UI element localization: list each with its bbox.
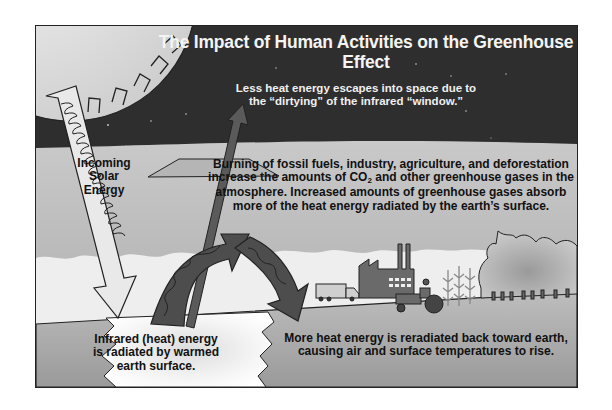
label-fragment: and other greenhouse gases in the (372, 170, 574, 184)
label-line: is radiated by warmed (76, 346, 236, 359)
label-line: atmosphere. Increased amounts of greenho… (196, 186, 578, 199)
label-line: Energy (64, 184, 144, 197)
label-line: Incoming (64, 157, 144, 170)
label-line: earth surface. (76, 360, 236, 373)
crops (443, 266, 475, 306)
label-reradiated-heat: More heat energy is reradiated back towa… (276, 332, 576, 359)
diagram-frame: The Impact of Human Activities on the Gr… (35, 25, 578, 388)
label-line: More heat energy is reradiated back towa… (276, 332, 576, 345)
label-line: Burning of fossil fuels, industry, agric… (196, 158, 578, 171)
label-infrared-radiation: Infrared (heat) energy is radiated by wa… (76, 333, 236, 373)
label-line: increase the amounts of CO2 and other gr… (196, 171, 578, 186)
diagram-title: The Impact of Human Activities on the Gr… (156, 33, 576, 72)
label-line: Less heat energy escapes into space due … (206, 82, 506, 95)
label-fragment: increase the amounts of CO (208, 170, 367, 184)
label-line: causing air and surface temperatures to … (276, 345, 576, 358)
label-line: the “dirtying” of the infrared “window.” (206, 95, 506, 108)
label-escape-space: Less heat energy escapes into space due … (206, 82, 506, 108)
label-line: Solar (64, 170, 144, 183)
label-line: Infrared (heat) energy (76, 333, 236, 346)
label-incoming-solar-energy: Incoming Solar Energy (64, 157, 144, 197)
label-human-activities: Burning of fossil fuels, industry, agric… (196, 158, 578, 213)
label-line: more of the heat energy radiated by the … (196, 200, 578, 213)
